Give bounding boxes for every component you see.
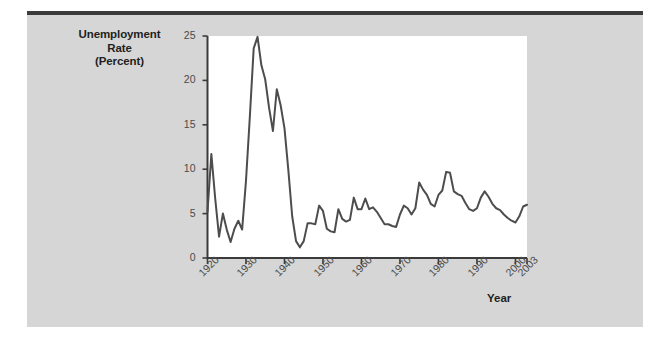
y-tick-label: 0 [170, 251, 196, 263]
plot-area [0, 0, 670, 345]
y-tick-label: 25 [170, 29, 196, 41]
plot-background [208, 36, 528, 258]
line-chart-svg [0, 0, 670, 345]
y-tick-label: 15 [170, 118, 196, 130]
figure-container: Unemployment Rate (Percent) Year 0510152… [0, 0, 670, 345]
y-tick-label: 5 [170, 207, 196, 219]
y-tick-label: 10 [170, 162, 196, 174]
y-tick-label: 20 [170, 73, 196, 85]
